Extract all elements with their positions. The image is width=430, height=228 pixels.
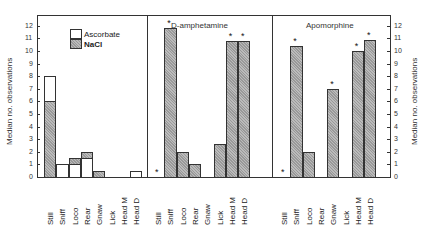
- bar: [81, 158, 93, 178]
- y-tick-left: 8: [29, 72, 33, 79]
- legend-label-ascorbate: Ascorbate: [84, 30, 120, 39]
- x-tick-label: Gnaw: [203, 204, 212, 225]
- y-tick-right: 2: [394, 148, 398, 155]
- x-tick-label: Still: [46, 212, 55, 225]
- bar: [214, 144, 226, 178]
- bar: [290, 46, 302, 178]
- bar: [189, 164, 201, 178]
- y-tick-left: 12: [25, 22, 33, 29]
- bar: [327, 89, 339, 178]
- x-tick-label: Still: [280, 212, 289, 225]
- y-tick-left: 11: [25, 34, 32, 41]
- significance-star: *: [241, 32, 245, 41]
- tick-mark: [387, 89, 390, 90]
- y-tick-left: 9: [29, 60, 33, 67]
- x-tick-label: Rear: [191, 208, 200, 225]
- tick-mark: [387, 76, 390, 77]
- panel-divider: [272, 15, 273, 178]
- x-tick-label: Sniff: [166, 209, 175, 225]
- y-tick-right: 11: [394, 34, 401, 41]
- bar: [238, 41, 250, 178]
- x-tick-label: Lick: [342, 211, 351, 225]
- significance-star: *: [293, 37, 297, 46]
- y-tick-right: 1: [394, 160, 398, 167]
- y-tick-right: 12: [394, 22, 402, 29]
- panel-divider: [147, 15, 148, 178]
- y-axis-label-right: Median no. observations: [410, 58, 419, 145]
- x-tick-label: Rear: [83, 208, 92, 225]
- tick-mark: [387, 114, 390, 115]
- tick-mark: [37, 139, 40, 140]
- y-tick-right: 0: [394, 173, 398, 180]
- x-tick-label: Head M: [120, 197, 129, 225]
- bar: [93, 171, 105, 178]
- tick-mark: [37, 127, 40, 128]
- tick-mark: [387, 139, 390, 140]
- tick-mark: [37, 177, 40, 178]
- y-tick-right: 9: [394, 60, 398, 67]
- tick-mark: [37, 76, 40, 77]
- panel-title: D-amphetamine: [171, 21, 228, 30]
- tick-mark: [387, 26, 390, 27]
- bar: [303, 152, 315, 178]
- bar: [364, 40, 376, 178]
- bar: [352, 51, 364, 178]
- y-tick-left: 7: [29, 85, 33, 92]
- x-tick-label: Loco: [71, 208, 80, 225]
- y-axis-label-left: Median no. observations: [5, 58, 14, 145]
- right-axis: [390, 15, 391, 178]
- y-tick-right: 10: [394, 47, 402, 54]
- significance-star: *: [155, 168, 159, 177]
- y-tick-left: 1: [29, 160, 33, 167]
- y-tick-right: 6: [394, 97, 398, 104]
- y-tick-left: 0: [29, 173, 33, 180]
- tick-mark: [387, 101, 390, 102]
- x-tick-label: Gnaw: [95, 204, 104, 225]
- y-tick-left: 6: [29, 97, 33, 104]
- y-tick-right: 8: [394, 72, 398, 79]
- tick-mark: [387, 51, 390, 52]
- significance-star: *: [330, 80, 334, 89]
- tick-mark: [37, 101, 40, 102]
- bar: [69, 164, 81, 178]
- panel-title: Apomorphine: [306, 21, 354, 30]
- y-tick-right: 3: [394, 135, 398, 142]
- x-tick-label: Still: [154, 212, 163, 225]
- y-tick-left: 4: [29, 123, 33, 130]
- x-tick-label: Lick: [216, 211, 225, 225]
- bar: [56, 164, 68, 178]
- y-tick-right: 4: [394, 123, 398, 130]
- tick-mark: [37, 89, 40, 90]
- y-tick-left: 5: [29, 110, 33, 117]
- tick-mark: [37, 164, 40, 165]
- tick-mark: [387, 38, 390, 39]
- tick-mark: [387, 64, 390, 65]
- bar: [130, 171, 142, 178]
- tick-mark: [387, 164, 390, 165]
- x-tick-label: Sniff: [292, 209, 301, 225]
- bar: [164, 28, 176, 178]
- bar: [226, 41, 238, 178]
- tick-mark: [37, 26, 40, 27]
- significance-star: *: [281, 168, 285, 177]
- left-axis: [37, 15, 38, 178]
- x-tick-label: Head M: [228, 197, 237, 225]
- tick-mark: [37, 114, 40, 115]
- tick-mark: [37, 152, 40, 153]
- y-tick-right: 5: [394, 110, 398, 117]
- y-tick-left: 3: [29, 135, 33, 142]
- legend-label-nacl: NaCl: [84, 40, 102, 49]
- x-tick-label: Head D: [132, 198, 141, 225]
- significance-star: *: [367, 31, 371, 40]
- y-tick-left: 10: [25, 47, 33, 54]
- bar: [44, 101, 56, 178]
- tick-mark: [37, 38, 40, 39]
- y-tick-right: 7: [394, 85, 398, 92]
- tick-mark: [37, 64, 40, 65]
- y-tick-left: 2: [29, 148, 33, 155]
- x-tick-label: Head D: [366, 198, 375, 225]
- x-tick-label: Head M: [354, 197, 363, 225]
- significance-star: *: [355, 42, 359, 51]
- legend-swatch-nacl: [70, 39, 82, 49]
- x-tick-label: Rear: [317, 208, 326, 225]
